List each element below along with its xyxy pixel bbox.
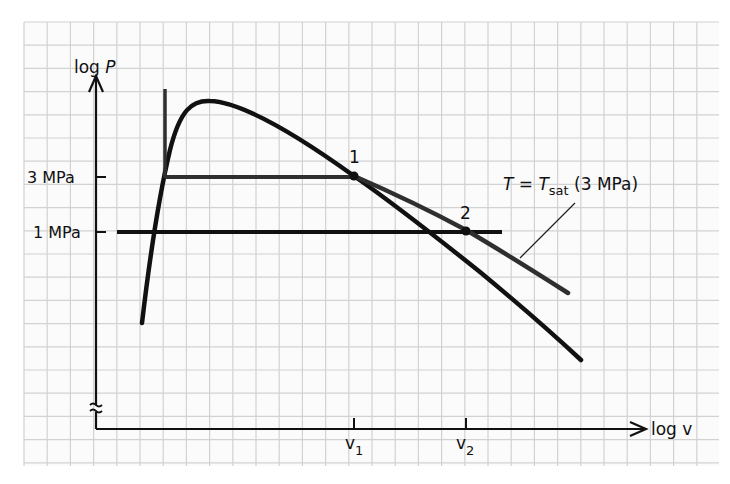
x-axis-label: log v bbox=[651, 419, 692, 439]
diagram-canvas: log P 3 MPa 1 MPa log v v1 v2 1 2 T = Ts… bbox=[0, 0, 730, 484]
state-point-1 bbox=[350, 172, 359, 181]
y-axis-label: log P bbox=[74, 57, 116, 77]
y-tick-label-3mpa: 3 MPa bbox=[27, 168, 75, 187]
point-label-1: 1 bbox=[349, 147, 360, 167]
state-point-2 bbox=[462, 227, 471, 236]
y-tick-label-1mpa: 1 MPa bbox=[33, 223, 81, 242]
point-label-2: 2 bbox=[460, 203, 471, 223]
